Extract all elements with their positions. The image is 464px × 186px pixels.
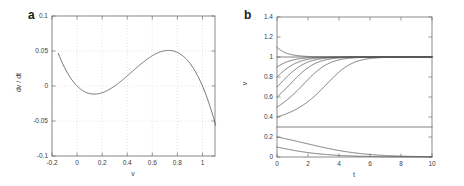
panel-b-trajectories bbox=[277, 47, 432, 157]
panel-a-xlabel: v bbox=[113, 170, 153, 177]
trajectory-v0-0p2 bbox=[277, 137, 432, 157]
panel-a-xtick-6: 1 bbox=[183, 159, 223, 166]
panel-a-ylabel: dv / dt bbox=[15, 53, 22, 113]
panel-a-gridlines bbox=[52, 16, 215, 156]
panel-a-ytick-4: -0.1 bbox=[14, 152, 48, 159]
panel-a: a bbox=[0, 0, 232, 186]
trajectory-v0-0p1 bbox=[277, 147, 432, 157]
trajectory-v0-1p1 bbox=[277, 47, 432, 57]
panel-b-xlabel: t bbox=[334, 171, 374, 178]
panel-b-ytick-1: 0.2 bbox=[239, 133, 273, 140]
panel-b-ytick-2: 0.4 bbox=[239, 113, 273, 120]
trajectory-v0-0p6 bbox=[277, 57, 432, 97]
panel-b-ytick-7: 1.4 bbox=[239, 13, 273, 20]
panel-b-ytick-0: 0 bbox=[239, 153, 273, 160]
figure-container: a bbox=[0, 0, 464, 186]
panel-a-ytick-0: 0.1 bbox=[14, 12, 48, 19]
panel-a-ytick-3: -0.05 bbox=[14, 117, 48, 124]
panel-b: b bbox=[232, 0, 464, 186]
panel-b-ylabel: v bbox=[241, 54, 248, 114]
trajectory-v0-0p5 bbox=[277, 57, 432, 107]
panel-a-curve bbox=[58, 50, 215, 125]
panel-b-xtick-5: 10 bbox=[412, 160, 452, 167]
panel-b-ytick-6: 1.2 bbox=[239, 33, 273, 40]
